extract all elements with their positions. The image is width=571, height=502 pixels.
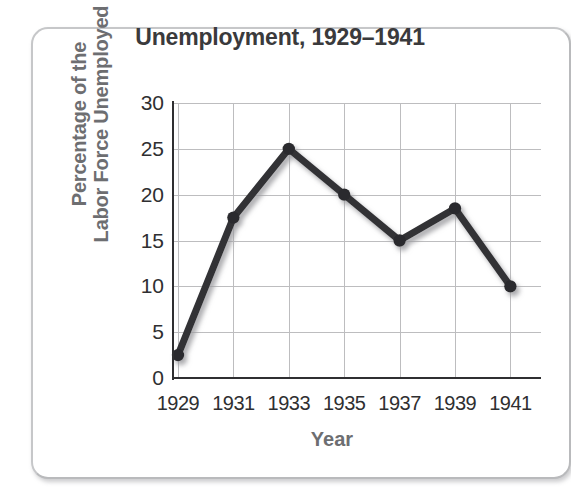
line-series [172, 103, 541, 378]
data-point-marker [393, 234, 405, 246]
x-axis-tick-label: 1939 [424, 392, 486, 415]
data-point-marker [338, 188, 350, 200]
y-axis-title-line-1: Percentage of the [69, 42, 91, 206]
data-point-marker [449, 202, 461, 214]
x-axis-tick-label: 1931 [202, 392, 264, 415]
y-axis-tick-label: 25 [112, 137, 164, 161]
x-axis-tick-label: 1929 [147, 392, 209, 415]
y-axis-tick-label: 10 [112, 274, 164, 298]
y-axis-tick-label: 0 [112, 366, 164, 390]
y-axis-tick-label: 20 [112, 183, 164, 207]
series-line [178, 149, 510, 355]
data-point-marker [283, 143, 295, 155]
x-axis-tick-label: 1933 [258, 392, 320, 415]
y-axis-tick-label: 30 [112, 91, 164, 115]
data-point-marker [227, 211, 239, 223]
x-axis-tick-label: 1941 [479, 392, 541, 415]
x-axis-line [172, 377, 541, 379]
data-point-marker [504, 280, 516, 292]
x-axis-title: Year [172, 428, 492, 451]
x-axis-tick-label: 1935 [313, 392, 375, 415]
x-axis-tick-label: 1937 [369, 392, 431, 415]
y-axis-tick-label: 5 [112, 320, 164, 344]
plot-area [172, 103, 541, 378]
y-axis-tick-label: 15 [112, 229, 164, 253]
y-axis-tick-labels: 051015202530 [108, 0, 164, 502]
y-axis-line [172, 101, 174, 380]
